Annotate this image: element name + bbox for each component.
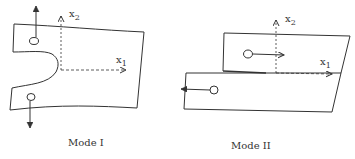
mode-1-lower-hole [27,94,35,101]
mode-2-figure: x2 x1 Mode II [181,13,350,151]
mode-1-upper-hole [30,38,39,45]
mode-2-x2-label: x2 [285,13,296,27]
fracture-modes-diagram: x2 x1 Mode I x2 x1 Mode II [0,0,355,159]
mode-2-upper-block [223,33,350,73]
mode-2-upper-hole [244,50,253,58]
mode-2-caption: Mode II [231,140,271,151]
mode-1-x2-label: x2 [69,8,80,22]
mode-1-caption: Mode I [68,137,104,148]
mode-2-upper-force-arrow [253,54,284,55]
mode-2-lower-hole [210,86,218,94]
mode-1-x1-label: x1 [116,54,127,68]
mode-1-figure: x2 x1 Mode I [10,6,144,148]
mode-2-x1-label: x1 [320,56,331,70]
mode-2-lower-block [184,73,341,112]
